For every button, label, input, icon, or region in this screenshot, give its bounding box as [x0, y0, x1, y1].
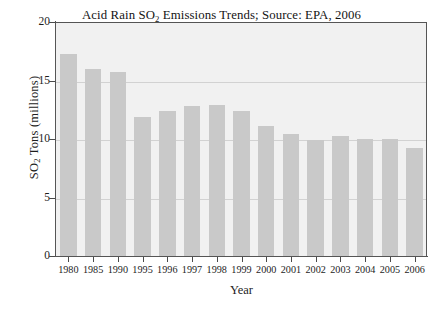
- chart-title-text-after: Emissions Trends; Source: EPA, 2006: [159, 8, 361, 22]
- y-axis-tick-label: 0: [24, 250, 50, 262]
- bar: [110, 72, 126, 256]
- x-axis-tick-label: 2001: [279, 264, 304, 275]
- y-axis-tick-mark: [49, 256, 55, 257]
- plot-area: [56, 22, 427, 256]
- x-axis-tick-mark: [415, 257, 416, 262]
- x-axis-tick-label: 2006: [402, 264, 427, 275]
- x-axis-tick-label: 1996: [155, 264, 180, 275]
- bar: [60, 54, 76, 256]
- x-axis-tick-mark: [242, 257, 243, 262]
- x-axis-tick-label: 2004: [353, 264, 378, 275]
- x-axis-tick-mark: [68, 257, 69, 262]
- y-axis-tick-label: 20: [24, 16, 50, 28]
- x-axis-tick-label: 1997: [180, 264, 205, 275]
- x-axis-tick-label: 1995: [130, 264, 155, 275]
- bar: [332, 136, 348, 257]
- x-axis-tick-label: 1998: [204, 264, 229, 275]
- x-axis-tick-mark: [390, 257, 391, 262]
- bar: [382, 139, 398, 256]
- x-axis-tick-mark: [167, 257, 168, 262]
- x-axis-tick-mark: [118, 257, 119, 262]
- y-axis-tick-mark: [49, 139, 55, 140]
- bar: [357, 139, 373, 256]
- x-axis-tick-mark: [340, 257, 341, 262]
- x-axis-tick-label: 1980: [56, 264, 81, 275]
- bar: [283, 134, 299, 256]
- x-axis-tick-label: 2005: [378, 264, 403, 275]
- x-axis-tick-label: 1985: [81, 264, 106, 275]
- bar: [184, 106, 200, 256]
- x-axis-tick-mark: [143, 257, 144, 262]
- y-axis-tick-label: 5: [24, 192, 50, 204]
- x-axis-tick-mark: [266, 257, 267, 262]
- x-axis-tick-mark: [217, 257, 218, 262]
- bar: [258, 126, 274, 256]
- x-axis-tick-label: 2002: [303, 264, 328, 275]
- chart-title-text-before: Acid Rain SO: [82, 8, 155, 22]
- bar-series: [56, 23, 426, 256]
- x-axis-tick-label: 1999: [229, 264, 254, 275]
- y-axis-tick-mark: [49, 22, 55, 23]
- x-axis-tick-mark: [93, 257, 94, 262]
- x-axis-tick-mark: [192, 257, 193, 262]
- bar: [307, 140, 323, 256]
- bar: [159, 111, 175, 256]
- y-axis-tick-labels: 05101520: [20, 0, 50, 309]
- y-axis-tick-mark: [49, 198, 55, 199]
- bar: [209, 105, 225, 256]
- bar: [233, 111, 249, 256]
- x-axis-label: Year: [56, 283, 427, 298]
- x-axis-tick-mark: [291, 257, 292, 262]
- bar: [85, 69, 101, 256]
- x-axis-tick-label: 2000: [254, 264, 279, 275]
- x-axis-tick-mark: [316, 257, 317, 262]
- x-axis-tick-mark: [365, 257, 366, 262]
- bar: [406, 148, 422, 256]
- x-axis-tick-label: 2003: [328, 264, 353, 275]
- y-axis-tick-label: 15: [24, 75, 50, 87]
- chart-figure: Acid Rain SO2 Emissions Trends; Source: …: [0, 0, 443, 309]
- y-axis-tick-mark: [49, 81, 55, 82]
- bar: [134, 117, 150, 256]
- x-axis-tick-label: 1990: [105, 264, 130, 275]
- y-axis-tick-label: 10: [24, 133, 50, 145]
